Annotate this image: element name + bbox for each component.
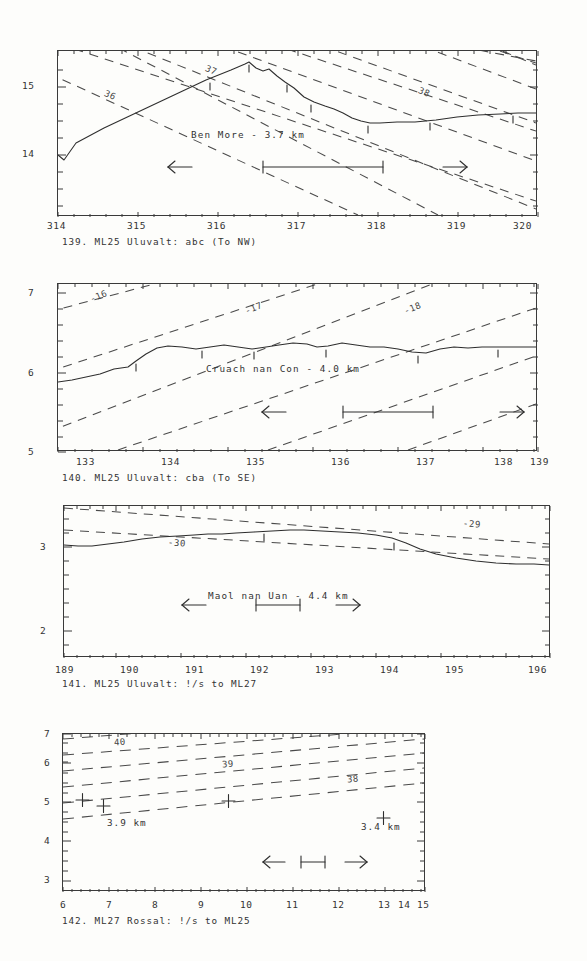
x-tick-label-139-4: 318	[367, 221, 386, 231]
x-tick-label-141-0: 189	[55, 665, 74, 675]
y-tick-label-140-0: 7	[28, 288, 34, 298]
x-tick-label-140-4: 137	[416, 457, 435, 467]
x-tick-label-140-1: 134	[161, 457, 180, 467]
y-tick-label-141-0: 3	[40, 542, 46, 552]
caption-142: 142. ML27 Rossal: !/s to ML25	[62, 915, 250, 926]
y-tick-label-141-1: 2	[40, 626, 46, 636]
x-tick-label-141-3: 192	[250, 665, 269, 675]
x-tick-label-142-1: 7	[106, 900, 112, 910]
x-tick-label-141-6: 195	[445, 665, 464, 675]
caption-140: 140. ML25 Uluvalt: cba (To SE)	[62, 472, 257, 483]
y-tick-label-140-1: 6	[28, 368, 34, 378]
y-tick-label-140-2: 5	[28, 447, 34, 457]
plot-frame-142	[62, 733, 425, 891]
x-tick-label-142-0: 6	[60, 900, 66, 910]
annotation-140: Cruach nan Con - 4.0 km	[206, 364, 360, 373]
x-tick-label-139-6: 320	[513, 221, 532, 231]
panel-141: 3 2 189 190 191 192 193 194 195 196 -30 …	[0, 490, 587, 705]
caption-141: 141. ML25 Uluvalt: !/s to ML27	[62, 678, 257, 689]
dashed-label-141-30: -30	[168, 538, 186, 548]
x-tick-label-141-1: 190	[120, 665, 139, 675]
x-tick-label-142-7: 13	[378, 900, 391, 910]
x-tick-label-141-7: 196	[528, 665, 547, 675]
dashed-label-142-40: 40	[114, 738, 126, 748]
annotation-139: Ben More - 3.7 km	[191, 130, 305, 139]
x-tick-label-139-3: 317	[287, 221, 306, 231]
dashed-label-142-39: 39	[222, 760, 234, 770]
x-tick-label-142-6: 12	[332, 900, 345, 910]
figure-page: 15 14 314 315 316 317 318 319 320 36 37 …	[0, 0, 587, 961]
x-tick-label-142-5: 11	[286, 900, 299, 910]
x-tick-label-142-8: 14	[398, 900, 411, 910]
x-tick-label-141-2: 191	[185, 665, 204, 675]
x-tick-label-140-0: 133	[76, 457, 95, 467]
y-tick-label-142-0: 7	[44, 729, 50, 739]
x-tick-label-139-0: 314	[47, 221, 66, 231]
x-tick-label-142-3: 9	[198, 900, 204, 910]
panel-140: 7 6 5 133 134 135 136 137 138 139 -16 -1…	[0, 250, 587, 490]
panel-142: 7 6 5 4 3 6 7 8 9 10 11 12 13 14 15 40 3…	[0, 705, 587, 961]
annotation-141: Maol nan Uan - 4.4 km	[208, 591, 349, 600]
panel-139: 15 14 314 315 316 317 318 319 320 36 37 …	[0, 0, 587, 250]
x-tick-label-142-2: 8	[152, 900, 158, 910]
x-tick-label-139-5: 319	[447, 221, 466, 231]
y-tick-label-142-1: 6	[44, 758, 50, 768]
x-tick-label-141-4: 193	[315, 665, 334, 675]
annotation-142-left: 3.9 km	[107, 818, 147, 827]
x-tick-label-139-1: 315	[127, 221, 146, 231]
axis-ticks-142	[62, 733, 427, 893]
x-tick-label-140-6: 139	[530, 457, 549, 467]
y-tick-label-139-0: 15	[22, 81, 35, 91]
x-tick-label-141-5: 194	[380, 665, 399, 675]
dashed-label-141-29: -29	[463, 519, 481, 529]
x-tick-label-142-4: 10	[240, 900, 253, 910]
x-tick-label-142-9: 15	[417, 900, 430, 910]
y-tick-label-142-4: 3	[44, 875, 50, 885]
y-tick-label-139-1: 14	[22, 149, 35, 159]
x-tick-label-139-2: 316	[207, 221, 226, 231]
caption-139: 139. ML25 Uluvalt: abc (To NW)	[62, 236, 257, 247]
dashed-label-142-38: 38	[347, 775, 359, 785]
y-tick-label-142-3: 4	[44, 836, 50, 846]
y-tick-label-142-2: 5	[44, 797, 50, 807]
x-tick-label-140-5: 138	[494, 457, 513, 467]
annotation-142-right: 3.4 km	[361, 822, 401, 831]
x-tick-label-140-2: 135	[246, 457, 265, 467]
x-tick-label-140-3: 136	[331, 457, 350, 467]
